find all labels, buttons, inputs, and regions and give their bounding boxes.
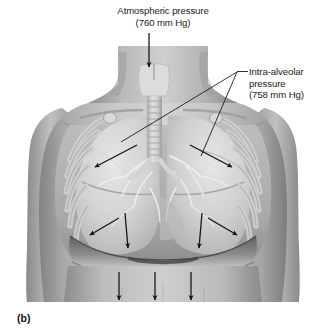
sternoclavicular-left: [104, 113, 117, 124]
thorax-illustration: [0, 0, 326, 334]
label-intraalveolar-line3: (758 mm Hg): [249, 89, 304, 101]
label-intraalveolar-line2: pressure: [249, 78, 304, 90]
figure-panel-b: Atmospheric pressure (760 mm Hg) Intra-a…: [0, 0, 326, 334]
abdomen: [64, 266, 262, 302]
label-atmospheric-pressure: Atmospheric pressure (760 mm Hg): [0, 5, 326, 28]
label-atmospheric-line2: (760 mm Hg): [0, 17, 326, 29]
trachea: [147, 96, 162, 162]
label-intra-alveolar-pressure: Intra-alveolar pressure (758 mm Hg): [249, 66, 304, 101]
label-intraalveolar-line1: Intra-alveolar: [249, 66, 304, 78]
label-atmospheric-line1: Atmospheric pressure: [0, 5, 326, 17]
panel-letter: (b): [17, 312, 30, 324]
